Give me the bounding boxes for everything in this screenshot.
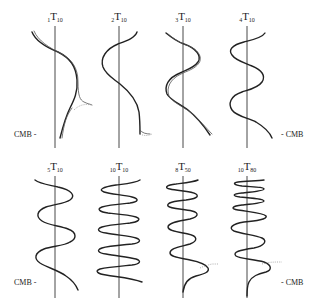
- cmb-marker-top-left: CMB -: [14, 130, 36, 139]
- curve-p7: [167, 180, 218, 292]
- letter-p6: T: [116, 160, 123, 172]
- label-p7: 8T50: [175, 160, 191, 173]
- degree-p3: 10: [185, 17, 191, 23]
- label-p3: 3T10: [175, 10, 191, 23]
- degree-p1: 10: [57, 17, 63, 23]
- cmb-marker-bottom-right: - CMB: [281, 278, 303, 287]
- curve-p1: [32, 31, 92, 138]
- letter-p8: T: [244, 160, 251, 172]
- label-p5: 5T10: [47, 160, 63, 173]
- letter-p5: T: [50, 160, 57, 172]
- cmb-marker-bottom-left: CMB -: [14, 278, 36, 287]
- curve-p6: [97, 180, 142, 282]
- letter-p1: T: [50, 10, 57, 22]
- letter-p2: T: [114, 10, 121, 22]
- letter-p3: T: [178, 10, 185, 22]
- degree-p6: 10: [122, 167, 128, 173]
- curve-p2: [102, 32, 152, 136]
- degree-p7: 50: [185, 167, 191, 173]
- degree-p8: 80: [250, 167, 256, 173]
- eigenfunction-figure: 1T10 2T10 3T10 4T10 5T10 10T10 8T50 10T8…: [0, 0, 320, 308]
- degree-p2: 10: [121, 17, 127, 23]
- label-p2: 2T10: [111, 10, 127, 23]
- label-p8: 10T80: [238, 160, 257, 173]
- figure-canvas: [0, 0, 320, 308]
- degree-p5: 10: [57, 167, 63, 173]
- label-p1: 1T10: [47, 10, 63, 23]
- curve-p8: [231, 180, 282, 296]
- label-p4: 4T10: [239, 10, 255, 23]
- letter-p7: T: [178, 160, 185, 172]
- degree-p4: 10: [249, 17, 255, 23]
- cmb-marker-top-right: - CMB: [281, 130, 303, 139]
- curve-p5: [35, 180, 78, 290]
- label-p6: 10T10: [110, 160, 129, 173]
- curve-p4: [230, 33, 272, 138]
- letter-p4: T: [242, 10, 249, 22]
- curve-p3: [166, 33, 212, 135]
